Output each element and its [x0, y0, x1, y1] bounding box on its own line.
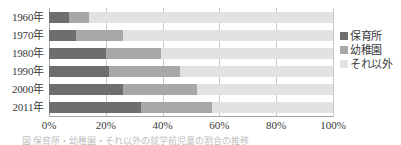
legend-label: 保育所 — [350, 30, 382, 42]
legend-swatch-icon — [340, 32, 348, 40]
y-axis-label: 1990年 — [12, 66, 44, 77]
bar-segment — [76, 30, 123, 41]
bar-segment — [109, 66, 180, 77]
legend-item: それ以外 — [340, 57, 400, 70]
y-axis-label: 1960年 — [12, 12, 44, 23]
x-axis-tick-label: 20% — [96, 119, 116, 132]
plot-area — [49, 8, 333, 117]
y-axis-label: 1980年 — [12, 48, 44, 59]
bar-segment — [161, 48, 333, 59]
bar-row — [49, 102, 333, 113]
bar-segment — [49, 48, 106, 59]
bar-row — [49, 30, 333, 41]
legend-label: 幼稚園 — [350, 44, 382, 56]
x-axis-tick-label: 100% — [320, 119, 346, 132]
bar-row — [49, 12, 333, 23]
legend-item: 幼稚園 — [340, 43, 400, 56]
legend-swatch-icon — [340, 46, 348, 54]
bar-row — [49, 48, 333, 59]
bar-row — [49, 84, 333, 95]
bar-segment — [197, 84, 333, 95]
bar-segment — [69, 12, 89, 23]
y-axis-label: 2000年 — [12, 84, 44, 95]
y-axis-label: 1970年 — [12, 30, 44, 41]
bar-segment — [212, 102, 333, 113]
stacked-bar-chart: 1960年1970年1980年1990年2000年2011年 0%20%40%6… — [0, 0, 401, 145]
bar-segment — [123, 30, 333, 41]
x-axis-tick-label: 80% — [266, 119, 286, 132]
bar-segment — [106, 48, 161, 59]
gridline-100 — [333, 8, 334, 117]
bar-row — [49, 66, 333, 77]
x-axis-tick-labels: 0%20%40%60%80%100% — [0, 119, 401, 133]
x-axis-tick-label: 40% — [153, 119, 173, 132]
legend-item: 保育所 — [340, 29, 400, 42]
bar-segment — [49, 30, 76, 41]
bar-segment — [180, 66, 333, 77]
legend-swatch-icon — [340, 60, 348, 68]
legend-label: それ以外 — [350, 58, 393, 70]
bar-segment — [49, 12, 69, 23]
bar-segment — [141, 102, 212, 113]
bar-segment — [123, 84, 197, 95]
figure-caption: 図 保育所・幼稚園・それ以外の就学前児童の割合の推移 — [22, 136, 401, 145]
x-axis-tick-label: 0% — [42, 119, 57, 132]
bar-segment — [49, 66, 109, 77]
bar-segment — [49, 102, 141, 113]
y-axis-labels: 1960年1970年1980年1990年2000年2011年 — [0, 8, 47, 117]
bars-layer — [49, 8, 333, 117]
x-axis-tick-label: 60% — [209, 119, 229, 132]
bar-segment — [49, 84, 123, 95]
chart-legend: 保育所幼稚園それ以外 — [340, 29, 400, 71]
bar-segment — [89, 12, 333, 23]
y-axis-label: 2011年 — [12, 102, 44, 113]
